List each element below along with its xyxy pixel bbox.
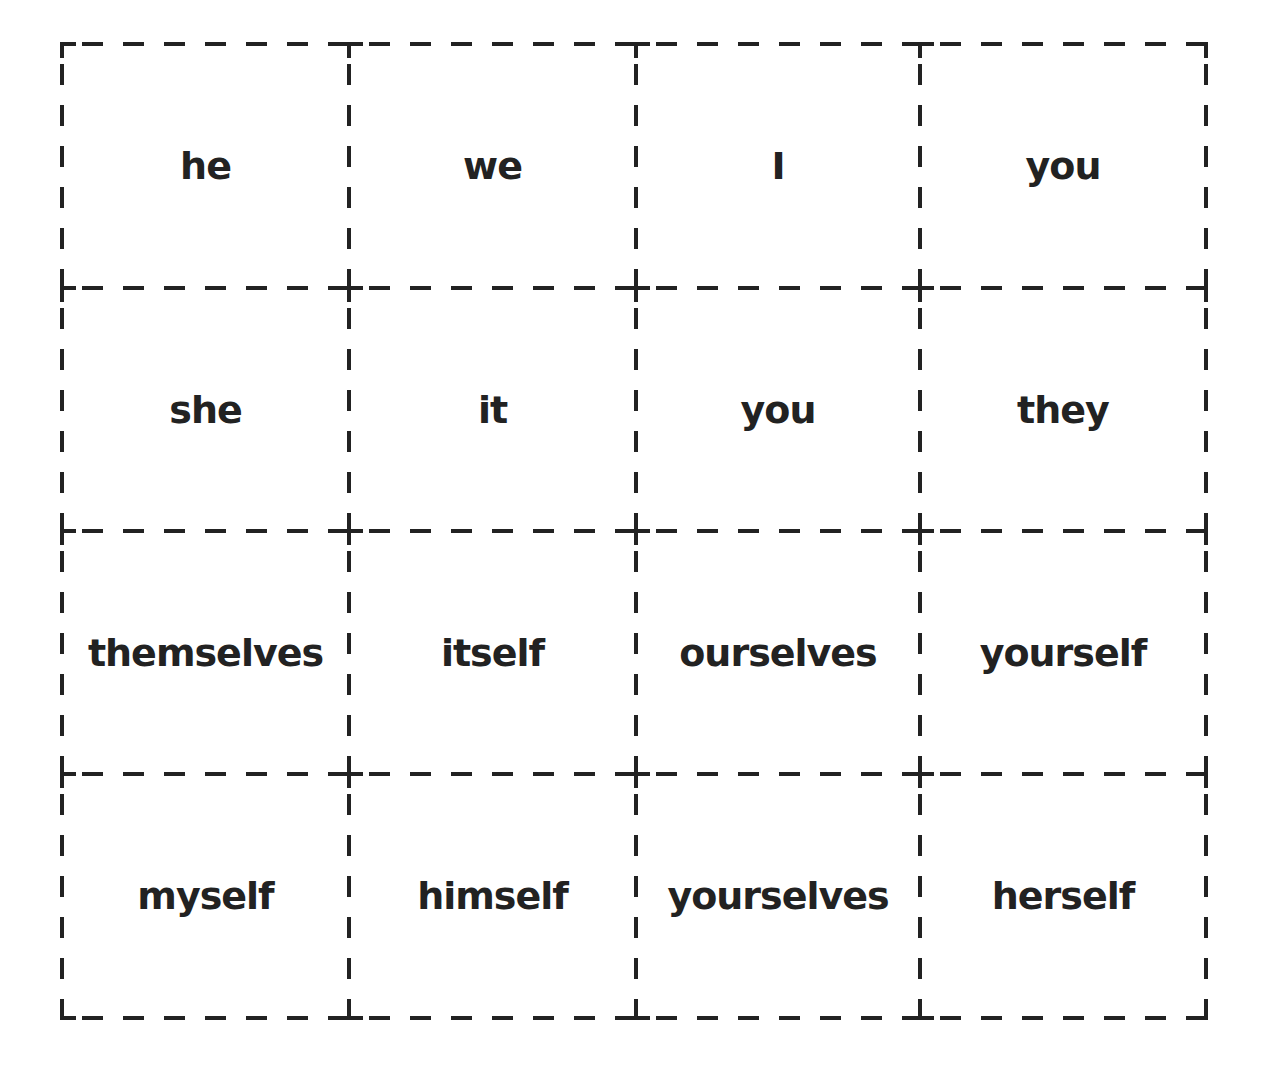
pronoun-card-label: myself	[62, 774, 349, 1018]
pronoun-card-label: herself	[920, 774, 1206, 1018]
pronoun-card-label: you	[636, 288, 920, 531]
pronoun-card-label: themselves	[62, 531, 349, 774]
pronoun-card-label: they	[920, 288, 1206, 531]
pronoun-card-label: yourselves	[636, 774, 920, 1018]
pronoun-card-label: ourselves	[636, 531, 920, 774]
pronoun-card-label: himself	[349, 774, 636, 1018]
pronoun-card-label: he	[62, 44, 349, 288]
pronoun-card-label: yourself	[920, 531, 1206, 774]
pronoun-card-label: itself	[349, 531, 636, 774]
pronoun-card-label: I	[636, 44, 920, 288]
pronoun-card-label: you	[920, 44, 1206, 288]
pronoun-card-label: it	[349, 288, 636, 531]
pronoun-card-label: she	[62, 288, 349, 531]
pronoun-card-label: we	[349, 44, 636, 288]
